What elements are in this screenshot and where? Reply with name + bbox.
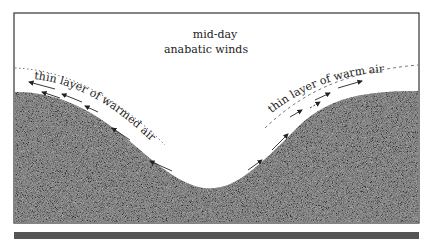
diagram-title-line2: anabatic winds [164,43,248,56]
diagram-title-line1: mid-day [193,28,238,41]
next-panel-edge [14,232,419,239]
anabatic-winds-diagram: mid-day anabatic winds thin layer of war… [0,0,431,239]
